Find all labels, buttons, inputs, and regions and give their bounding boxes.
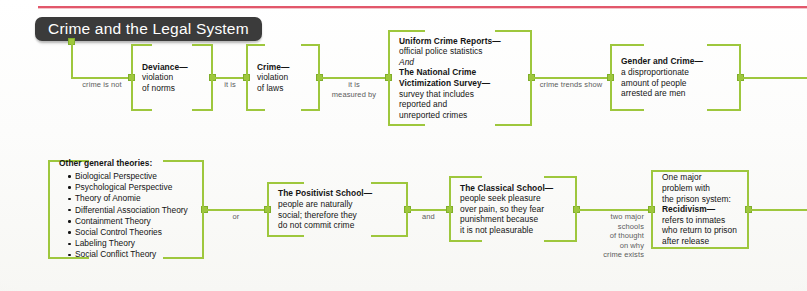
connector-label-and: and [408,212,449,222]
connector-line-top-row-tail [742,77,807,79]
concept-box-crime-measures: Uniform Crime Reports— official police s… [388,30,532,126]
concept-box-gender-and-crime: Gender and Crime— a disproportionate amo… [610,44,741,111]
connector-line-positivist-classical [409,209,448,211]
connector-label-crime-trends-show: crime trends show [531,80,611,90]
connector-label-it-is: it is [213,80,247,90]
concept-box-crime: Crime— violation of laws [246,44,320,111]
concept-box-other-theories: Other general theories: Biological Persp… [48,160,204,259]
connector-line-classical-recidivism [578,209,650,211]
top-red-rule [38,6,807,8]
concept-line-ucr-5: survey that includes [399,89,523,100]
list-item: Theory of Anomie [68,193,195,204]
concept-line-ucr-and: And [399,57,414,67]
concept-line-deviance-2: of norms [142,83,204,94]
concept-line-recidivism-1: refers to inmates [662,215,740,226]
concept-line-classical-4: it is not pleasurable [460,225,568,236]
list-item: Psychological Perspective [68,182,195,193]
list-item: Biological Perspective [68,171,195,182]
list-item: Social Conflict Theory [68,249,195,260]
concept-line-classical-2: over pain, so they fear [460,204,568,215]
concept-title-recidivism: Recidivism— [662,204,715,214]
concept-line-ucr-1: official police statistics [399,46,523,57]
concept-line-crime-1: violation [257,72,311,83]
concept-title-other-theories: Other general theories: [59,158,195,169]
concept-title-positivist: The Positivist School— [278,188,372,198]
concept-box-positivist-school: The Positivist School— people are natura… [267,182,408,237]
connector-label-or: or [205,212,267,222]
concept-line-ucr-7: unreported crimes [399,110,523,121]
concept-line-positivist-1: people are naturally [278,199,399,210]
list-item: Labeling Theory [68,238,195,249]
concept-line-positivist-3: do not commit crime [278,220,399,231]
concept-box-deviance: Deviance— violation of norms [131,44,213,111]
concept-line-positivist-2: social; therefore they [278,210,399,221]
concept-line-gender-1: a disproportionate [621,67,732,78]
connector-line-title-right [71,77,131,79]
connector-line-measures-gender [533,77,609,79]
concept-title-ucr: Uniform Crime Reports— [399,36,501,46]
connector-label-crime-is-not: crime is not [74,80,130,90]
concept-lead-recidivism-1: One major [662,172,740,183]
concept-line-ucr-3: The National Crime [399,67,476,77]
concept-title-gender: Gender and Crime— [621,56,703,66]
concept-line-deviance-1: violation [142,72,204,83]
concept-line-gender-2: amount of people [621,78,732,89]
connector-line-title-down [71,41,73,78]
concept-lead-recidivism-3: the prison system: [662,194,740,205]
list-item: Containment Theory [68,216,195,227]
connector-line-crime-measures [321,77,387,79]
connector-line-bottom-row-tail [750,209,807,211]
connector-line-deviance-crime [214,77,245,79]
concept-line-gender-3: arrested are men [621,88,732,99]
concept-line-ucr-4: Victimization Survey— [399,78,490,88]
concept-lead-recidivism-2: problem with [662,183,740,194]
connector-label-it-is-measured-by: it is measured by [320,80,388,99]
concept-title-deviance: Deviance— [142,62,188,72]
concept-line-recidivism-2: who return to prison [662,225,740,236]
concept-line-classical-1: people seek pleasure [460,193,568,204]
concept-box-recidivism: One major problem with the prison system… [651,170,749,249]
concept-line-crime-2: of laws [257,83,311,94]
concept-title-classical: The Classical School— [460,183,553,193]
concept-box-classical-school: The Classical School— people seek pleasu… [449,176,577,242]
list-item: Social Control Theories [68,227,195,238]
list-item: Differential Association Theory [68,205,195,216]
concept-line-ucr-6: reported and [399,99,523,110]
other-theories-list: Biological Perspective Psychological Per… [59,171,195,261]
connector-label-two-major-schools: two major schools of thought on why crim… [570,212,644,260]
connector-line-theories-positivist [206,209,266,211]
concept-line-classical-3: punishment because [460,214,568,225]
concept-line-recidivism-3: after release [662,236,740,247]
concept-title-crime: Crime— [257,62,289,72]
